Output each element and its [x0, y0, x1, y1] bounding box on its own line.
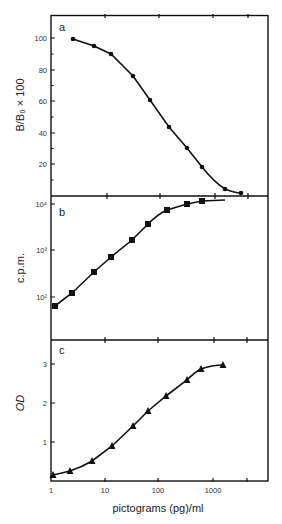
panel-a-ylabel: B/B₀ × 100	[14, 78, 26, 131]
svg-text:3: 3	[43, 360, 47, 369]
svg-text:2: 2	[43, 399, 47, 408]
frame	[51, 16, 268, 482]
panel-b-label: b	[59, 206, 65, 218]
square-markers	[52, 198, 205, 309]
x-tick-labels: 1 10 100 1000	[49, 486, 221, 495]
svg-text:10: 10	[101, 486, 109, 495]
figure-canvas: a b c 100 80 60 40 20 10⁴ 10³ 10² 3 2 1 …	[0, 0, 282, 524]
panel-a-ytick-labels: 100 80 60 40 20	[34, 34, 47, 169]
panel-b-ylabel: c.p.m.	[14, 253, 26, 283]
svg-text:20: 20	[39, 160, 47, 169]
triangle-markers	[50, 361, 227, 478]
x-ticks	[105, 14, 248, 482]
panel-b-ytick-labels: 10⁴ 10³ 10²	[35, 200, 47, 302]
panel-c-series	[50, 361, 227, 478]
svg-text:1000: 1000	[205, 486, 222, 495]
panel-a-label: a	[59, 21, 66, 33]
svg-text:10³: 10³	[36, 246, 47, 255]
svg-text:1: 1	[43, 438, 47, 447]
x-axis-title: pictograms (pg)/ml	[112, 502, 203, 514]
svg-text:60: 60	[39, 97, 47, 106]
circle-markers	[71, 37, 244, 196]
panel-c-ylabel: OD	[14, 395, 26, 412]
panel-a-series	[71, 37, 244, 196]
svg-text:10²: 10²	[36, 293, 47, 302]
svg-text:100: 100	[34, 34, 47, 43]
panel-b-series	[52, 198, 225, 309]
svg-text:40: 40	[39, 129, 47, 138]
svg-text:1: 1	[49, 486, 53, 495]
svg-text:100: 100	[152, 486, 165, 495]
svg-text:80: 80	[39, 66, 47, 75]
svg-text:10⁴: 10⁴	[35, 200, 47, 209]
panel-c-label: c	[59, 344, 65, 356]
panel-c-ytick-labels: 3 2 1	[43, 360, 47, 447]
